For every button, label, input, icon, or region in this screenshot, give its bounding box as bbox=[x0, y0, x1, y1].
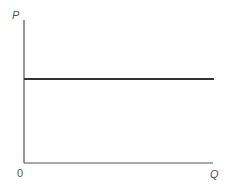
x-axis-label: Q bbox=[210, 169, 219, 180]
chart bbox=[0, 0, 231, 186]
origin-label: 0 bbox=[17, 168, 23, 179]
y-axis-label: P bbox=[12, 10, 19, 21]
